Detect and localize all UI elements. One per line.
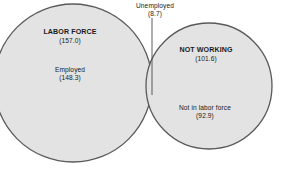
not-working-label: NOT WORKING (101.6): [160, 46, 252, 63]
employed-label: Employed (148.3): [26, 66, 114, 82]
unemployed-label-value: (8.7): [110, 10, 200, 18]
venn-diagram: LABOR FORCE (157.0) Employed (148.3) Une…: [0, 0, 287, 170]
not-working-circle: [146, 23, 272, 149]
not-working-label-value: (101.6): [160, 55, 252, 63]
labor-force-label-value: (157.0): [22, 37, 118, 45]
not-in-labor-force-label-name: Not in labor force: [155, 104, 255, 112]
employed-label-value: (148.3): [26, 74, 114, 82]
employed-label-name: Employed: [26, 66, 114, 74]
not-in-labor-force-label: Not in labor force (92.9): [155, 104, 255, 120]
not-working-label-title: NOT WORKING: [160, 46, 252, 55]
labor-force-label-title: LABOR FORCE: [22, 28, 118, 37]
unemployed-label-name: Unemployed: [110, 2, 200, 10]
venn-diagram-canvas: [0, 0, 287, 170]
unemployed-label: Unemployed (8.7): [110, 2, 200, 18]
not-in-labor-force-label-value: (92.9): [155, 112, 255, 120]
labor-force-label: LABOR FORCE (157.0): [22, 28, 118, 45]
